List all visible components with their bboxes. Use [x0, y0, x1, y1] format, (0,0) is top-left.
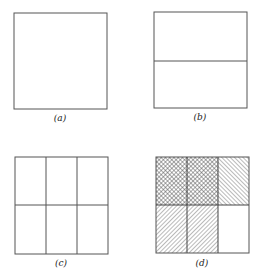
- panel-a: (a): [14, 13, 107, 123]
- caption-d: (d): [196, 258, 209, 268]
- panel-b: (b): [154, 12, 247, 122]
- cell-crosshatch-1: [156, 157, 187, 205]
- panel-c: (c): [15, 157, 108, 268]
- cell-hatch-backslash: [218, 157, 249, 205]
- cell-hatch-slash-1: [156, 205, 187, 253]
- square-whole: [14, 13, 107, 109]
- caption-b: (b): [194, 112, 207, 122]
- diagram-canvas: (a) (b) (c) (d): [0, 0, 259, 280]
- caption-a: (a): [54, 113, 67, 123]
- cell-hatch-slash-2: [187, 205, 218, 253]
- square-halves: [154, 12, 247, 108]
- panel-d: (d): [156, 157, 249, 268]
- cell-empty: [218, 205, 249, 253]
- caption-c: (c): [55, 258, 68, 268]
- cell-crosshatch-2: [187, 157, 218, 205]
